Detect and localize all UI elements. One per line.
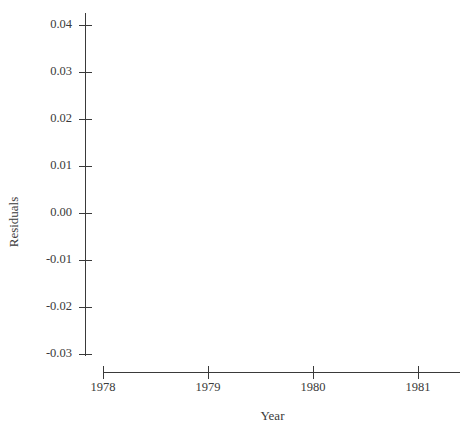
y-tick-label-container: 0.04	[0, 18, 72, 32]
x-tick-mark	[208, 366, 209, 379]
y-tick-label-container: -0.03	[0, 347, 72, 361]
x-tick-label: 1981	[378, 381, 458, 394]
x-tick-mark	[313, 366, 314, 379]
y-tick-label: 0.03	[0, 65, 72, 78]
y-tick-label-container: -0.02	[0, 300, 72, 314]
y-tick-label: 0.01	[0, 159, 72, 172]
x-tick-mark	[103, 366, 104, 379]
y-tick-label: -0.01	[0, 253, 72, 266]
y-tick-label-container: 0.00	[0, 206, 72, 220]
y-tick-label-container: 0.02	[0, 112, 72, 126]
y-tick-label-container: 0.03	[0, 65, 72, 79]
residuals-vs-year-chart: Residuals 0.04 0.03 0.02 0.01 0.00 -0.01	[0, 0, 468, 444]
y-tick-label: -0.03	[0, 347, 72, 360]
y-tick-label-container: 0.01	[0, 159, 72, 173]
y-tick-label: 0.02	[0, 112, 72, 125]
x-tick-label: 1979	[168, 381, 248, 394]
y-tick-label: -0.02	[0, 300, 72, 313]
x-axis-title: Year	[85, 408, 460, 424]
x-tick-label: 1980	[273, 381, 353, 394]
y-axis-title-label: Residuals	[6, 197, 22, 248]
x-axis-line	[103, 372, 460, 373]
y-tick-label: 0.04	[0, 18, 72, 31]
y-tick-label-container: -0.01	[0, 253, 72, 267]
x-tick-label: 1978	[63, 381, 143, 394]
y-tick-label: 0.00	[0, 206, 72, 219]
x-tick-mark	[418, 366, 419, 379]
plot-area	[85, 13, 460, 355]
